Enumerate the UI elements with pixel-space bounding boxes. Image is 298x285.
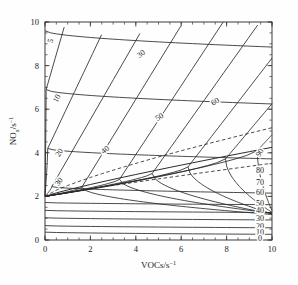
contour-20-upper xyxy=(48,35,102,149)
y-tick-label: 4 xyxy=(35,148,40,158)
contour-5-lower xyxy=(45,31,272,47)
edge-contour-label-0: 0 xyxy=(258,234,262,243)
y-axis-label: NOx/s−1 xyxy=(8,117,20,145)
x-tick-label: 2 xyxy=(88,244,92,254)
contour-baseline-50 xyxy=(45,203,272,205)
ozone-isopleth-figure: 0246810024681055101020203030303040405050… xyxy=(0,0,298,285)
contour-label-5-0: 5 xyxy=(46,38,56,45)
contour-label-60-7: 60 xyxy=(209,96,221,108)
x-tick-label: 0 xyxy=(43,244,47,254)
ridge-line-dashed-upper xyxy=(45,128,272,197)
x-tick-label: 8 xyxy=(224,244,228,254)
edge-contour-label-70: 70 xyxy=(256,178,264,187)
contour-baseline-20 xyxy=(45,226,272,228)
x-tick-label: 4 xyxy=(134,244,139,254)
y-tick-label: 2 xyxy=(35,191,39,201)
contour-label-10-1: 10 xyxy=(51,93,63,104)
edge-contour-label-60: 60 xyxy=(256,188,264,197)
ridge-line-dashed-lower xyxy=(45,163,272,196)
y-tick-label: 10 xyxy=(31,17,40,27)
y-tick-label: 6 xyxy=(35,104,39,114)
contour-baseline-10 xyxy=(45,232,272,234)
x-tick-label: 6 xyxy=(179,244,183,254)
contour-baseline-30 xyxy=(45,218,272,220)
edge-contour-label-80: 80 xyxy=(256,166,264,175)
contour-label-20-2: 20 xyxy=(53,147,65,159)
x-axis-label: VOCs/s−1 xyxy=(141,260,176,270)
contour-label-30-3: 30 xyxy=(53,176,65,188)
contour-label-30-4: 30 xyxy=(135,48,147,60)
contour-plot-svg: 0246810024681055101020203030303040405050… xyxy=(0,0,298,285)
contour-10-upper xyxy=(46,27,64,89)
x-tick-label: 10 xyxy=(268,244,277,254)
contour-80-upper xyxy=(225,104,272,159)
y-tick-label: 8 xyxy=(35,61,39,71)
y-tick-label: 0 xyxy=(35,235,39,245)
contour-40-upper xyxy=(82,26,181,187)
